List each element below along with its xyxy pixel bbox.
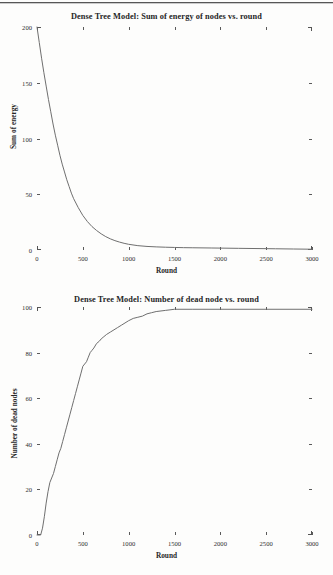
- x-tick-label: 1500: [168, 255, 181, 262]
- x-tick-label: 3000: [305, 255, 318, 262]
- x-tick-label: 500: [78, 255, 88, 262]
- y-tick-label: 100: [13, 304, 32, 311]
- x-tick-label: 1000: [122, 255, 135, 262]
- y-tick-label: 20: [13, 486, 32, 493]
- x-tick-label: 2000: [214, 255, 227, 262]
- x-tick-label: 1500: [168, 540, 181, 547]
- figure-page: Dense Tree Model: Sum of energy of nodes…: [0, 0, 333, 575]
- data-series-line: [37, 309, 312, 535]
- plot-area-energy: 050010001500200025003000050100150200: [37, 27, 312, 250]
- x-tick-label: 500: [78, 540, 88, 547]
- y-tick-label: 0: [13, 532, 32, 539]
- x-tick-label: 0: [35, 255, 38, 262]
- y-tick-label: 150: [13, 79, 32, 86]
- x-tick-label: 3000: [305, 540, 318, 547]
- x-tick-label: 1000: [122, 540, 135, 547]
- y-tick-label: 0: [13, 247, 32, 254]
- x-axis-label: Round: [0, 551, 333, 560]
- x-tick-label: 0: [35, 540, 38, 547]
- chart-sum-of-energy: Dense Tree Model: Sum of energy of nodes…: [0, 4, 333, 287]
- x-tick-label: 2500: [260, 540, 273, 547]
- x-tick-label: 2000: [214, 540, 227, 547]
- y-axis-label: Number of dead nodes: [10, 380, 19, 468]
- y-tick-label: 50: [13, 191, 32, 198]
- chart-title: Dense Tree Model: Sum of energy of nodes…: [0, 12, 333, 21]
- x-axis-label: Round: [0, 266, 333, 275]
- chart-title: Dense Tree Model: Number of dead node vs…: [0, 295, 333, 304]
- plot-area-dead-nodes: 050010001500200025003000020406080100: [37, 307, 312, 535]
- x-tick-label: 2500: [260, 255, 273, 262]
- y-tick-label: 200: [13, 24, 32, 31]
- y-tick-label: 80: [13, 349, 32, 356]
- series-layer: [37, 307, 312, 535]
- data-series-line: [37, 27, 312, 249]
- chart-dead-nodes: Dense Tree Model: Number of dead node vs…: [0, 289, 333, 572]
- series-layer: [37, 27, 312, 250]
- x-tick-bottom: [312, 532, 313, 535]
- y-axis-label: Sum of energy: [9, 92, 18, 162]
